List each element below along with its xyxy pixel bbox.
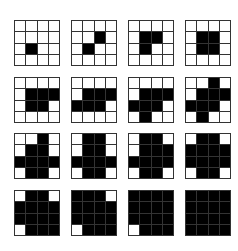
filled-cell	[83, 214, 93, 224]
empty-cell	[95, 44, 105, 54]
filled-cell	[220, 214, 230, 224]
empty-cell	[106, 21, 116, 31]
empty-cell	[197, 21, 207, 31]
filled-cell	[140, 89, 150, 99]
filled-cell	[95, 101, 105, 111]
filled-cell	[26, 225, 36, 235]
empty-cell	[95, 112, 105, 122]
filled-cell	[152, 157, 162, 167]
empty-cell	[129, 134, 139, 144]
empty-cell	[15, 32, 25, 42]
empty-cell	[26, 134, 36, 144]
empty-cell	[49, 44, 59, 54]
filled-cell	[26, 202, 36, 212]
empty-cell	[26, 32, 36, 42]
pattern-grid-r3-c1	[14, 133, 60, 179]
filled-cell	[38, 202, 48, 212]
filled-cell	[140, 202, 150, 212]
filled-cell	[95, 225, 105, 235]
filled-cell	[72, 101, 82, 111]
filled-cell	[106, 89, 116, 99]
empty-cell	[129, 145, 139, 155]
filled-cell	[152, 225, 162, 235]
pattern-grid-r3-c2	[71, 133, 117, 179]
empty-cell	[197, 55, 207, 65]
filled-cell	[152, 145, 162, 155]
filled-cell	[95, 202, 105, 212]
empty-cell	[163, 168, 173, 178]
pattern-grid-r3-c3	[128, 133, 174, 179]
empty-cell	[15, 134, 25, 144]
filled-cell	[26, 44, 36, 54]
empty-cell	[129, 112, 139, 122]
empty-cell	[15, 55, 25, 65]
empty-cell	[129, 225, 139, 235]
filled-cell	[140, 225, 150, 235]
filled-cell	[38, 89, 48, 99]
empty-cell	[38, 44, 48, 54]
filled-cell	[186, 191, 196, 201]
filled-cell	[38, 168, 48, 178]
filled-cell	[140, 214, 150, 224]
empty-cell	[129, 32, 139, 42]
empty-cell	[38, 55, 48, 65]
filled-cell	[38, 134, 48, 144]
filled-cell	[95, 214, 105, 224]
empty-cell	[15, 78, 25, 88]
filled-cell	[26, 214, 36, 224]
filled-cell	[220, 191, 230, 201]
filled-cell	[197, 157, 207, 167]
empty-cell	[26, 112, 36, 122]
empty-cell	[106, 112, 116, 122]
filled-cell	[186, 214, 196, 224]
empty-cell	[220, 78, 230, 88]
filled-cell	[15, 214, 25, 224]
filled-cell	[49, 157, 59, 167]
empty-cell	[106, 44, 116, 54]
pattern-grid-r1-c1	[14, 20, 60, 66]
filled-cell	[83, 202, 93, 212]
filled-cell	[26, 191, 36, 201]
empty-cell	[15, 21, 25, 31]
empty-cell	[83, 78, 93, 88]
empty-cell	[140, 78, 150, 88]
empty-cell	[152, 78, 162, 88]
filled-cell	[83, 157, 93, 167]
empty-cell	[163, 78, 173, 88]
empty-cell	[106, 101, 116, 111]
empty-cell	[106, 55, 116, 65]
empty-cell	[38, 78, 48, 88]
filled-cell	[140, 112, 150, 122]
empty-cell	[186, 55, 196, 65]
pattern-grid-r4-c1	[14, 190, 60, 236]
filled-cell	[209, 134, 219, 144]
empty-cell	[220, 55, 230, 65]
filled-cell	[152, 101, 162, 111]
filled-cell	[38, 214, 48, 224]
filled-cell	[106, 157, 116, 167]
pattern-grid-r1-c3	[128, 20, 174, 66]
filled-cell	[72, 202, 82, 212]
filled-cell	[83, 44, 93, 54]
empty-cell	[209, 112, 219, 122]
empty-cell	[220, 134, 230, 144]
empty-cell	[152, 55, 162, 65]
empty-cell	[129, 21, 139, 31]
filled-cell	[209, 157, 219, 167]
filled-cell	[83, 225, 93, 235]
filled-cell	[209, 202, 219, 212]
empty-cell	[197, 78, 207, 88]
filled-cell	[197, 202, 207, 212]
empty-cell	[152, 112, 162, 122]
empty-cell	[15, 145, 25, 155]
empty-cell	[38, 21, 48, 31]
filled-cell	[197, 101, 207, 111]
empty-cell	[38, 32, 48, 42]
pattern-grid-r1-c2	[71, 20, 117, 66]
empty-cell	[220, 44, 230, 54]
empty-cell	[140, 21, 150, 31]
empty-cell	[163, 44, 173, 54]
empty-cell	[106, 78, 116, 88]
empty-cell	[106, 134, 116, 144]
empty-cell	[72, 55, 82, 65]
